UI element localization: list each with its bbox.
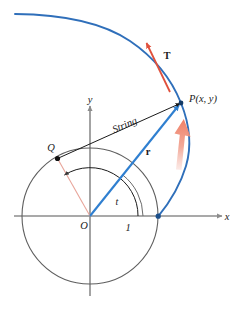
point-Q-label: Q xyxy=(47,142,55,153)
angle-t-label: t xyxy=(116,196,119,207)
point-P-label: P(x, y) xyxy=(188,93,217,105)
string-label: String xyxy=(111,115,139,135)
angle-arc-outer xyxy=(65,168,139,216)
point-P-dot xyxy=(179,101,184,106)
point-Q-dot xyxy=(55,156,60,161)
unit-tick-label: 1 xyxy=(125,222,130,233)
x-axis-label: x xyxy=(224,211,230,222)
angle-arc-t xyxy=(123,175,144,216)
radius-vector-label: r xyxy=(146,146,151,157)
diagram-canvas: x y O 1 t P(x, y) Q String T r xyxy=(0,0,241,310)
origin-label: O xyxy=(80,220,88,231)
curve-start-dot xyxy=(156,214,161,219)
y-axis-label: y xyxy=(87,94,93,105)
tangent-vector-label: T xyxy=(163,50,170,61)
involute-curve xyxy=(15,14,189,216)
radius-to-Q-line xyxy=(58,159,91,217)
involute-figure: x y O 1 t P(x, y) Q String T r xyxy=(0,0,241,310)
